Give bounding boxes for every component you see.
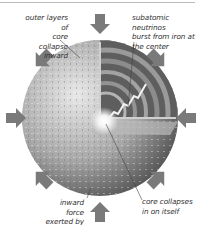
arrow-right-icon [176, 108, 196, 128]
label-line: exerted by gravity [40, 217, 84, 225]
label-line: burst from iron at [132, 32, 200, 42]
label-outer-layers: outer layers of core collapse inward [22, 13, 68, 61]
label-gravity: inward force exerted by gravity [40, 198, 84, 225]
label-line: subatomic neutrinos [132, 13, 200, 32]
label-line: inward [22, 51, 68, 61]
arrow-top-icon [90, 14, 110, 34]
label-neutrinos: subatomic neutrinos burst from iron at t… [132, 13, 200, 51]
label-line: outer layers of [22, 13, 68, 32]
label-core-collapse: core collapses in on itself [142, 197, 198, 216]
label-line: in on itself [142, 207, 198, 217]
label-line: inward force [40, 198, 84, 217]
label-line: the center [132, 42, 200, 52]
label-line: core collapse [22, 32, 68, 51]
arrow-bottom-icon [90, 202, 110, 222]
label-line: core collapses [142, 197, 198, 207]
